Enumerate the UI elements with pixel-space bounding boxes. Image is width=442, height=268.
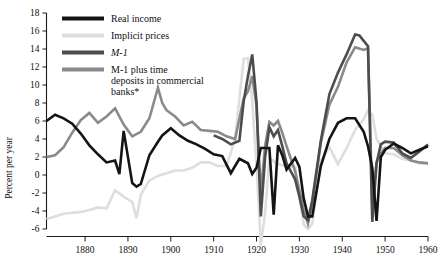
y-tick-label: -2 — [32, 188, 40, 198]
y-tick-label: 18 — [30, 8, 40, 18]
y-tick-label: 0 — [35, 170, 40, 180]
y-axis-title: Percent per year — [4, 136, 14, 199]
legend-label-m1-plus-time-deposits-line2: deposits in commercial — [111, 75, 204, 86]
legend-label-implicit-prices: Implicit prices — [111, 30, 169, 41]
y-tick-label: -6 — [32, 224, 40, 234]
x-tick-label: 1920 — [247, 245, 266, 255]
x-axis-group: 188018901900191019201930194019501960 — [47, 237, 438, 256]
x-tick-label: 1890 — [118, 245, 137, 255]
legend-label-m1-plus-time-deposits-line1: M-1 plus time — [111, 64, 168, 75]
y-tick-label: 2 — [35, 152, 40, 162]
y-tick-label: 4 — [35, 134, 40, 144]
series-line-m-1 — [214, 35, 428, 222]
x-tick-label: 1910 — [204, 245, 223, 255]
x-tick-label: 1880 — [76, 245, 95, 255]
series-group — [47, 35, 429, 246]
chart-container: 181614121086420-2-4-6 188018901900191019… — [0, 0, 442, 268]
legend-label-real-income: Real income — [111, 13, 162, 24]
y-tick-label: 10 — [30, 80, 40, 90]
legend-label-m1: M-1 — [110, 47, 128, 58]
legend-label-m1-plus-time-deposits-line3: banks* — [111, 86, 139, 97]
y-tick-label: 6 — [35, 116, 40, 126]
y-axis-group: 181614121086420-2-4-6 — [30, 8, 47, 234]
chart-legend: Real income Implicit prices M-1 M-1 plus… — [62, 13, 204, 97]
y-tick-label: 8 — [35, 98, 40, 108]
y-tick-group: 181614121086420-2-4-6 — [30, 8, 47, 234]
y-tick-label: 16 — [30, 26, 40, 36]
x-tick-label: 1960 — [419, 245, 438, 255]
y-tick-label: 12 — [30, 62, 40, 72]
x-tick-label: 1900 — [161, 245, 180, 255]
x-tick-label: 1940 — [333, 245, 352, 255]
x-tick-label: 1950 — [376, 245, 395, 255]
y-tick-label: 14 — [30, 44, 40, 54]
y-tick-label: -4 — [32, 206, 40, 216]
x-tick-group: 188018901900191019201930194019501960 — [76, 237, 438, 256]
line-chart: 181614121086420-2-4-6 188018901900191019… — [0, 0, 442, 268]
x-tick-label: 1930 — [290, 245, 309, 255]
